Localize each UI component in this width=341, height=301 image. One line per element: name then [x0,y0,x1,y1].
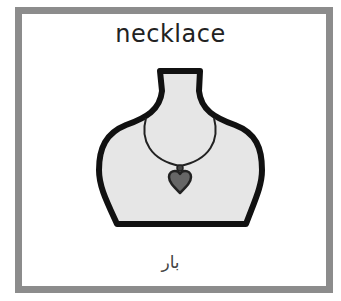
pendant-bail [177,165,183,171]
card-translation: بار [0,252,341,272]
bust-shape [99,71,262,224]
